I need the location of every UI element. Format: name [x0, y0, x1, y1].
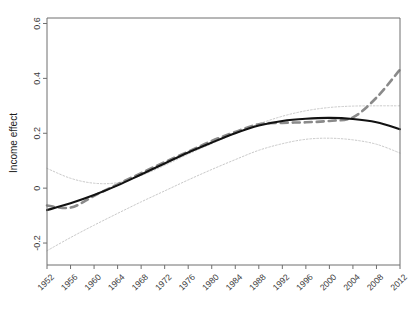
y-tick-label: -0.2: [32, 235, 42, 251]
y-tick-label: 0: [32, 186, 42, 191]
income-effect-line-chart: 0.60.40.20-0.2 1952195619601964196819721…: [0, 0, 420, 310]
y-tick-label: 0.2: [32, 127, 42, 140]
chart-background: [0, 0, 420, 310]
y-tick-label: 0.4: [32, 72, 42, 85]
chart-root: 0.60.40.20-0.2 1952195619601964196819721…: [0, 0, 420, 310]
y-tick-label: 0.6: [32, 17, 42, 30]
y-axis-title: Income effect: [8, 113, 19, 173]
